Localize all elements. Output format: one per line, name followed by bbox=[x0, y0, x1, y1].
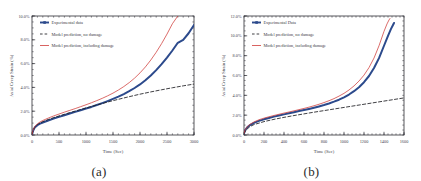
creep-strain-chart-b: 02004006008001000120014001600 0.0%2.0%4.… bbox=[210, 0, 421, 160]
x-tick-label: 1500 bbox=[109, 139, 118, 144]
x-tick-label: 2500 bbox=[163, 139, 172, 144]
x-tick-label: 3000 bbox=[190, 139, 199, 144]
legend-label-0: Experimental Data bbox=[264, 20, 296, 25]
subfigure-caption-b: (b) bbox=[206, 164, 417, 180]
y-tick-label: 4.0% bbox=[21, 85, 30, 90]
x-axis-title: Time (Sec) bbox=[103, 149, 124, 154]
x-tick-label: 600 bbox=[301, 139, 307, 144]
y-tick-label: 8.0% bbox=[21, 37, 30, 42]
x-tick-label: 400 bbox=[281, 139, 287, 144]
y-tick-label: 10.0% bbox=[230, 33, 242, 38]
y-tick-label: 12.0% bbox=[230, 14, 242, 19]
x-tick-label: 0 bbox=[243, 139, 245, 144]
y-axis-title: Axial Creep Strain (%) bbox=[9, 54, 14, 97]
x-tick-label: 1400 bbox=[380, 139, 389, 144]
x-tick-label: 1200 bbox=[360, 139, 369, 144]
y-tick-label: 6.0% bbox=[233, 73, 242, 78]
y-tick-label: 2.0% bbox=[233, 113, 242, 118]
x-tick-label: 2000 bbox=[136, 139, 145, 144]
x-tick-label: 1600 bbox=[400, 139, 409, 144]
chart-panel-a: 050010001500200025003000 0.0%2.0%4.0%6.0… bbox=[0, 0, 210, 181]
y-tick-label: 0.0% bbox=[233, 133, 242, 138]
y-tick-label: 8.0% bbox=[233, 53, 242, 58]
creep-strain-chart-a: 050010001500200025003000 0.0%2.0%4.0%6.0… bbox=[0, 0, 210, 160]
chart-panel-b: 02004006008001000120014001600 0.0%2.0%4.… bbox=[210, 0, 421, 181]
x-tick-label: 0 bbox=[31, 139, 33, 144]
y-tick-label: 6.0% bbox=[21, 61, 30, 66]
y-tick-label: 0.0% bbox=[21, 133, 30, 138]
x-tick-label: 500 bbox=[56, 139, 62, 144]
y-tick-label: 4.0% bbox=[233, 93, 242, 98]
y-tick-label: 2.0% bbox=[21, 109, 30, 114]
figure-container: 050010001500200025003000 0.0%2.0%4.0%6.0… bbox=[0, 0, 421, 181]
x-axis-title: Time (Sec) bbox=[314, 149, 335, 154]
legend-marker-0 bbox=[255, 21, 258, 24]
x-tick-label: 1000 bbox=[82, 139, 91, 144]
subfigure-caption-a: (a) bbox=[0, 164, 204, 180]
y-tick-label: 10.0% bbox=[18, 14, 30, 19]
x-tick-label: 1000 bbox=[340, 139, 349, 144]
x-tick-label: 200 bbox=[261, 139, 267, 144]
y-axis-title: Axial Creep Strain (%) bbox=[221, 54, 226, 97]
x-tick-label: 800 bbox=[321, 139, 327, 144]
legend-label-0: Experimental data bbox=[52, 20, 83, 25]
legend-marker-0 bbox=[43, 21, 46, 24]
